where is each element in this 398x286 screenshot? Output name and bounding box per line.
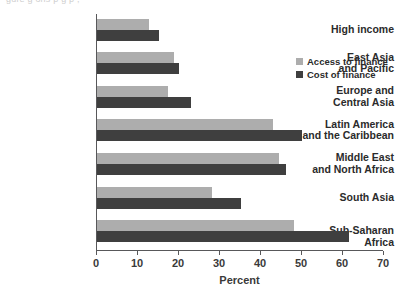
bar-access-to-finance	[97, 52, 174, 63]
bar-cost-of-finance	[97, 30, 159, 41]
x-axis-line	[96, 250, 383, 251]
x-tick-label: 70	[363, 257, 398, 269]
x-tick-label: 40	[240, 257, 280, 269]
cropped-title-fragment: gure g ons p g p ,	[0, 0, 398, 6]
bar-access-to-finance	[97, 153, 279, 164]
x-tick-mark	[178, 251, 179, 255]
x-tick-mark	[383, 251, 384, 255]
x-tick-label: 0	[76, 257, 116, 269]
bar-cost-of-finance	[97, 97, 191, 108]
legend-label-access: Access to finance	[307, 56, 388, 67]
bar-access-to-finance	[97, 187, 212, 198]
bar-access-to-finance	[97, 220, 294, 231]
x-tick-label: 50	[281, 257, 321, 269]
bar-access-to-finance	[97, 19, 149, 30]
legend-swatch-icon-access	[296, 58, 303, 65]
legend-item-cost-of-finance: Cost of finance	[296, 68, 388, 81]
bar-access-to-finance	[97, 86, 168, 97]
bar-cost-of-finance	[97, 130, 302, 141]
x-tick-label: 20	[158, 257, 198, 269]
x-axis-title: Percent	[96, 274, 383, 286]
x-tick-mark	[219, 251, 220, 255]
legend-item-access-to-finance: Access to finance	[296, 55, 388, 68]
x-tick-mark	[301, 251, 302, 255]
legend-swatch-icon-cost	[296, 71, 303, 78]
bar-cost-of-finance	[97, 164, 286, 175]
bar-cost-of-finance	[97, 231, 349, 242]
bar-cost-of-finance	[97, 198, 241, 209]
legend-label-cost: Cost of finance	[307, 69, 376, 80]
x-tick-label: 10	[117, 257, 157, 269]
x-tick-label: 60	[322, 257, 362, 269]
x-tick-label: 30	[199, 257, 239, 269]
x-tick-mark	[137, 251, 138, 255]
bar-access-to-finance	[97, 119, 273, 130]
plot-area: 010203040506070 Percent	[96, 14, 383, 250]
chart-legend: Access to finance Cost of finance	[296, 55, 388, 81]
x-tick-mark	[260, 251, 261, 255]
x-tick-mark	[96, 251, 97, 255]
x-tick-mark	[342, 251, 343, 255]
bar-cost-of-finance	[97, 63, 179, 74]
